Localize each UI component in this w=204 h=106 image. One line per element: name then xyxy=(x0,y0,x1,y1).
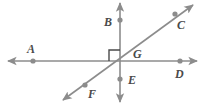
lines-group xyxy=(8,3,197,102)
label-point-g: G xyxy=(133,48,142,60)
label-point-f: F xyxy=(88,88,96,100)
geometry-diagram: ABCDEFG xyxy=(0,0,204,106)
label-point-e: E xyxy=(128,74,136,86)
label-point-d: D xyxy=(175,68,184,80)
label-point-c: C xyxy=(177,19,185,31)
label-point-b: B xyxy=(104,16,112,28)
point-c xyxy=(172,11,177,16)
point-d xyxy=(177,58,182,63)
point-a xyxy=(30,58,35,63)
point-f xyxy=(82,82,87,87)
label-point-a: A xyxy=(27,43,35,55)
point-e xyxy=(117,76,122,81)
point-b xyxy=(117,17,122,22)
